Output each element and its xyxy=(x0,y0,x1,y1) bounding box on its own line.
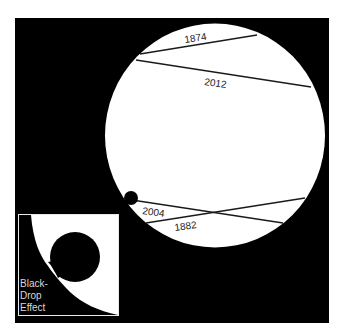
venus-disk xyxy=(124,191,138,205)
inset-label-line2: Drop xyxy=(20,290,42,301)
black-drop-inset: Black- Drop Effect xyxy=(19,215,119,316)
transit-diagram: 1874 2012 2004 1882 Black- Drop Effect xyxy=(0,0,345,336)
inset-label-line3: Effect xyxy=(20,302,46,313)
inset-label-line1: Black- xyxy=(20,278,48,289)
sun-disk xyxy=(105,24,325,248)
